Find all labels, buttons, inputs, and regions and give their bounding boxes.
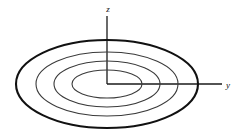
y-axis-label: y — [225, 80, 230, 90]
figure-background — [0, 0, 245, 139]
z-axis-label: z — [105, 4, 110, 14]
figure-container: z y — [0, 0, 245, 139]
contour-ellipses-diagram: z y — [0, 0, 245, 139]
